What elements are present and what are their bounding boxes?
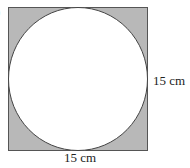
inscribed-circle (9, 8, 148, 151)
side-length-label-bottom: 15 cm (64, 150, 96, 166)
side-length-label-right: 15 cm (153, 73, 185, 89)
